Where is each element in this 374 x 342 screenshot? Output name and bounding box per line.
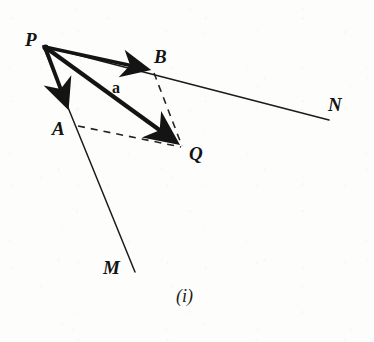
- point-label-N: N: [328, 95, 342, 114]
- point-label-Q: Q: [189, 144, 203, 163]
- point-label-B: B: [154, 47, 167, 66]
- vector-label-a: a: [112, 80, 120, 96]
- point-label-A: A: [52, 119, 65, 138]
- figure-caption: (i): [176, 287, 193, 305]
- vertex-P-ink: [42, 44, 48, 50]
- vector-diagram-figure: P A B Q M N a (i): [0, 0, 374, 342]
- point-label-M: M: [103, 258, 120, 277]
- point-label-P: P: [25, 30, 37, 49]
